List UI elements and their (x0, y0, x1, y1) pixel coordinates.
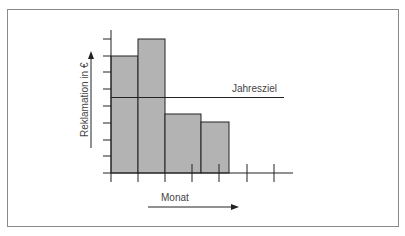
target-line-label: Jahresziel (232, 83, 277, 94)
y-axis-label: Reklamation in € (79, 62, 90, 137)
chart-canvas: Jahresziel Reklamation in € Monat (0, 0, 405, 236)
bar-month-3 (165, 114, 201, 173)
bars (111, 39, 229, 173)
x-axis-arrow-icon (148, 204, 239, 210)
x-axis-label: Monat (161, 192, 189, 203)
y-axis (103, 30, 111, 173)
bar-month-2 (138, 39, 165, 173)
bar-month-1 (111, 56, 138, 173)
bar-month-4 (201, 122, 229, 173)
